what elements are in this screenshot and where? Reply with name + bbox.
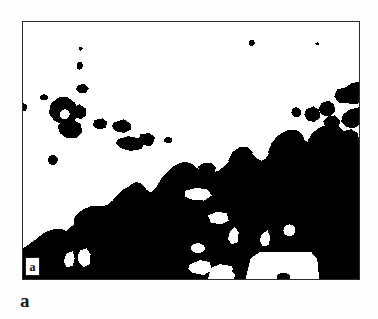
- speck-ul-3: [77, 62, 83, 70]
- figure-root: a a: [0, 0, 378, 319]
- binary-image-canvas: [23, 22, 359, 279]
- hole-triangle-center: [60, 109, 70, 119]
- binary-image-panel: a: [22, 21, 360, 280]
- edge-blob-8: [291, 107, 301, 117]
- speck-right-mid: [291, 130, 299, 138]
- hole-mid-bottom: [191, 243, 205, 253]
- speck-ur-2: [315, 42, 319, 45]
- speck-ul-1: [40, 94, 48, 100]
- speck-ul-4: [79, 47, 83, 51]
- figure-caption: a: [20, 291, 30, 311]
- speck-ur-1: [249, 40, 255, 46]
- speck-ml-1: [48, 155, 58, 165]
- speck-mid-6: [164, 137, 172, 143]
- inset-panel-label: a: [25, 257, 40, 276]
- hole-right-3: [283, 224, 295, 236]
- speck-mid-5: [143, 138, 153, 146]
